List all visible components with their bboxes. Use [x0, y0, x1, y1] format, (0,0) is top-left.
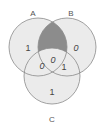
region-a-b-c-value: 0	[50, 55, 55, 65]
venn-diagram: A B C 1 0 1 0 1 0	[0, 0, 105, 127]
set-label-c: C	[49, 115, 55, 124]
region-c-only-value: 1	[49, 87, 54, 97]
region-a-and-c-value: 0	[39, 61, 44, 71]
region-a-only-value: 1	[25, 43, 30, 53]
region-b-only-value: 0	[73, 43, 78, 53]
region-b-and-c-value: 1	[61, 62, 66, 72]
set-label-a: A	[30, 9, 36, 18]
set-label-b: B	[68, 9, 73, 18]
